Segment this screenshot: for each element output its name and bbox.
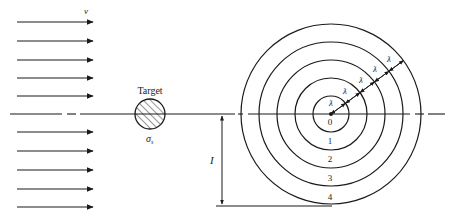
ring-label-2: 2: [328, 154, 333, 164]
lambda-symbol: ƛ: [386, 54, 391, 64]
target-disk: [135, 99, 165, 129]
ring-label-0: 0: [328, 117, 333, 127]
ring-label-3: 3: [328, 173, 333, 183]
velocity-label: v: [84, 6, 88, 16]
target-label: Target: [137, 85, 162, 96]
lambda-symbol: ƛ: [358, 75, 363, 85]
lambda-symbol: ƛ: [342, 86, 347, 96]
cross-section-label: σs: [146, 133, 154, 145]
ring-label-1: 1: [328, 136, 333, 146]
radial-arrows: [331, 61, 404, 115]
lambda-symbol: ƛ: [328, 98, 333, 108]
lambda-symbol: ƛ: [372, 64, 377, 74]
diagram-canvas: v Target σs I 0 1 2 3 4: [0, 0, 458, 222]
target: [135, 99, 165, 129]
ring-labels: 0 1 2 3 4: [328, 117, 333, 202]
ring-label-4: 4: [328, 192, 333, 202]
impact-parameter-label: I: [209, 154, 215, 166]
impact-parameter-dimension: [216, 116, 332, 206]
